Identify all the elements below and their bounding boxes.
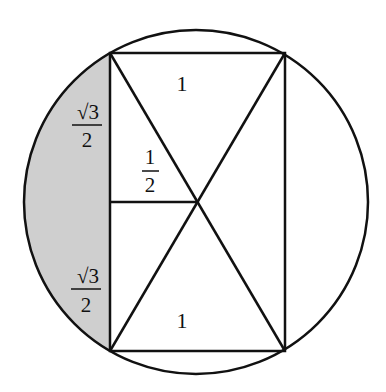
geometry-diagram: 1 1 1 2 √3 2 √3 2 <box>0 0 386 392</box>
fraction-numerator: 1 <box>145 145 156 169</box>
shaded-segment <box>24 53 110 351</box>
fraction-denominator: 2 <box>145 173 156 197</box>
fraction-numerator: √3 <box>77 264 99 288</box>
label-top-one: 1 <box>177 71 188 96</box>
fraction-denominator: 2 <box>82 128 93 152</box>
fraction-denominator: 2 <box>81 293 92 317</box>
label-bottom-one: 1 <box>177 308 188 333</box>
label-one-half: 1 2 <box>142 145 159 197</box>
fraction-numerator: √3 <box>77 100 99 124</box>
